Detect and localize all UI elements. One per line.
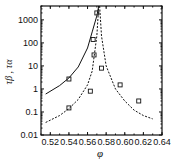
- y-axis-label: τβ , τα: [3, 59, 14, 85]
- data-point: [118, 83, 122, 87]
- y-tick-label: 1: [33, 84, 38, 94]
- fit-curve: [100, 6, 153, 119]
- axes: 0.520.540.560.580.600.620.640.010.111010…: [18, 6, 171, 147]
- x-tick-label: 0.54: [60, 137, 78, 147]
- x-tick-label: 0.62: [135, 137, 153, 147]
- x-tick-label: 0.56: [79, 137, 97, 147]
- chart: 0.520.540.560.580.600.620.640.010.111010…: [0, 0, 177, 163]
- y-tick-label: 10: [28, 61, 38, 71]
- data-point: [88, 89, 92, 93]
- x-tick-label: 0.60: [116, 137, 134, 147]
- x-axis-label: φ: [97, 147, 103, 159]
- y-tick-label: 0.01: [20, 130, 38, 140]
- data-point: [91, 38, 95, 42]
- y-tick-label: 100: [23, 38, 38, 48]
- y-tick-label: 1000: [18, 15, 38, 25]
- fit-curve: [46, 6, 99, 94]
- data-point: [100, 66, 104, 70]
- x-tick-label: 0.58: [97, 137, 115, 147]
- data-point: [137, 99, 141, 103]
- x-tick-label: 0.52: [42, 137, 60, 147]
- y-tick-label: 0.1: [25, 107, 38, 117]
- fit-curve: [46, 6, 99, 122]
- plot-area: [46, 6, 153, 122]
- x-tick-label: 0.64: [153, 137, 171, 147]
